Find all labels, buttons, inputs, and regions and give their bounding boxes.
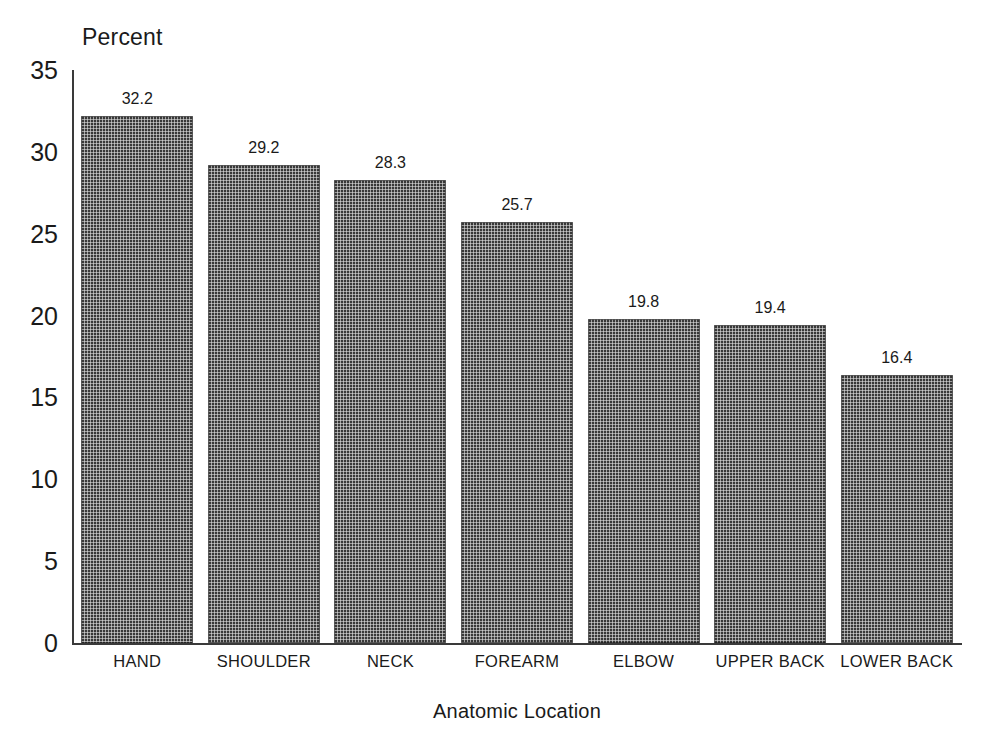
bar[interactable] [81,116,193,643]
x-axis-title: Anatomic Location [72,700,962,723]
x-axis-tick-label: LOWER BACK [833,653,960,670]
bar-chart: Percent 35302520151050 32.2HAND29.2SHOUL… [0,0,999,750]
bar-group: 25.7 [461,0,573,643]
bar[interactable] [461,222,573,643]
bars-layer: 32.2HAND29.2SHOULDER28.3NECK25.7FOREARM1… [0,0,999,750]
x-axis-tick-label: HAND [74,653,201,670]
bar[interactable] [334,180,446,643]
x-axis-tick-label: UPPER BACK [707,653,834,670]
bar-value-label: 25.7 [501,197,532,213]
bar-group: 19.8 [588,0,700,643]
x-axis-tick-label: SHOULDER [201,653,328,670]
bar-value-label: 19.4 [755,300,786,316]
bar-group: 16.4 [841,0,953,643]
bar-value-label: 32.2 [122,91,153,107]
x-axis-tick-label: ELBOW [580,653,707,670]
bar-group: 32.2 [81,0,193,643]
bar[interactable] [714,325,826,643]
bar-group: 19.4 [714,0,826,643]
bar-value-label: 19.8 [628,294,659,310]
bar[interactable] [841,375,953,643]
bar-value-label: 16.4 [881,350,912,366]
x-axis-tick-label: NECK [327,653,454,670]
bar-value-label: 29.2 [248,140,279,156]
bar[interactable] [588,319,700,643]
bar-group: 28.3 [334,0,446,643]
x-axis-tick-label: FOREARM [454,653,581,670]
bar-group: 29.2 [208,0,320,643]
bar-value-label: 28.3 [375,155,406,171]
bar[interactable] [208,165,320,643]
